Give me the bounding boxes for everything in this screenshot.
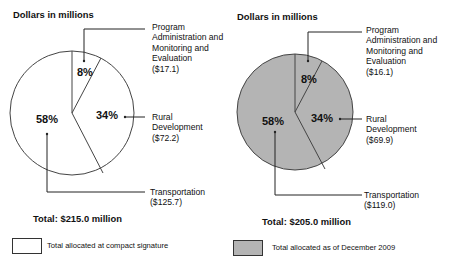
legend-swatch-december (233, 240, 263, 256)
left-label-program: Program Administration and Monitoring an… (152, 22, 223, 74)
legend-swatch-compact (12, 238, 42, 254)
left-pct-transport: 58% (36, 113, 58, 125)
left-total: Total: $215.0 million (33, 214, 122, 224)
right-label-rural: Rural Development ($69.9) (366, 114, 417, 145)
right-label-transport: Transportation ($119.0) (364, 190, 419, 211)
right-units-label: Dollars in millions (237, 12, 318, 22)
right-pie (237, 54, 353, 170)
left-pct-rural: 34% (96, 109, 118, 121)
left-label-rural: Rural Development ($72.2) (152, 112, 203, 143)
legend-label-compact: Total allocated at compact signature (47, 241, 168, 250)
right-label-program: Program Administration and Monitoring an… (366, 25, 437, 77)
right-pct-transport: 58% (262, 115, 284, 127)
right-total: Total: $205.0 million (262, 217, 351, 227)
left-label-transport: Transportation ($125.7) (150, 187, 205, 208)
legend-label-december: Total allocated as of December 2009 (272, 243, 395, 252)
left-pct-program: 8% (77, 66, 93, 78)
right-pct-rural: 34% (311, 112, 333, 124)
left-units-label: Dollars in millions (13, 10, 94, 20)
right-pct-program: 8% (301, 73, 317, 85)
